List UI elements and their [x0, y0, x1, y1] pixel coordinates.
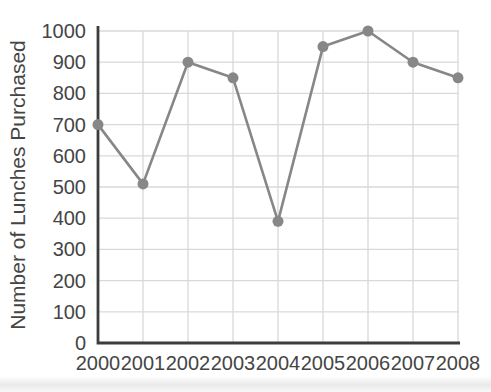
- x-tick-label: 2003: [211, 352, 256, 374]
- x-tick-label: 2000: [76, 352, 121, 374]
- x-tick-label: 2002: [166, 352, 211, 374]
- x-tick-label: 2001: [121, 352, 166, 374]
- y-tick-label: 0: [75, 332, 86, 354]
- data-point: [363, 26, 374, 37]
- x-tick-label: 2007: [391, 352, 436, 374]
- data-point: [408, 57, 419, 68]
- x-axis-tick-labels: 200020012002200320042005200620072008: [76, 352, 481, 374]
- y-tick-label: 800: [53, 82, 86, 104]
- y-tick-label: 1000: [42, 20, 87, 42]
- y-tick-label: 900: [53, 51, 86, 73]
- data-point: [93, 119, 104, 130]
- y-tick-label: 500: [53, 176, 86, 198]
- lunches-purchased-line-chart: 01002003004005006007008009001000 2000200…: [0, 0, 491, 392]
- axis-line: [98, 26, 460, 343]
- data-point: [228, 72, 239, 83]
- data-point: [138, 178, 149, 189]
- y-tick-label: 600: [53, 145, 86, 167]
- x-tick-label: 2005: [301, 352, 346, 374]
- y-tick-label: 200: [53, 270, 86, 292]
- axes: [98, 26, 460, 343]
- y-axis-tick-labels: 01002003004005006007008009001000: [42, 20, 87, 354]
- line-chart-canvas: 01002003004005006007008009001000 2000200…: [0, 0, 491, 392]
- x-tick-label: 2004: [256, 352, 301, 374]
- y-tick-label: 100: [53, 301, 86, 323]
- data-point: [453, 72, 464, 83]
- grid-lines: [98, 31, 459, 343]
- data-point: [273, 216, 284, 227]
- y-tick-label: 700: [53, 114, 86, 136]
- x-tick-label: 2008: [436, 352, 481, 374]
- y-tick-label: 300: [53, 238, 86, 260]
- data-point: [183, 57, 194, 68]
- x-tick-label: 2006: [346, 352, 391, 374]
- y-tick-label: 400: [53, 207, 86, 229]
- y-axis-title: Number of Lunches Purchased: [6, 40, 29, 330]
- data-point: [318, 41, 329, 52]
